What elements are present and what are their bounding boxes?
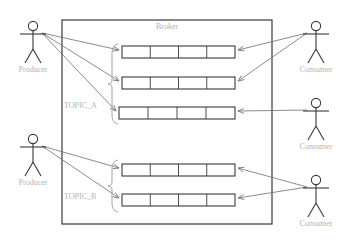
actor-leg-left: [308, 126, 316, 140]
partition-topic_b-0[interactable]: [122, 164, 235, 176]
actor-leg-left: [25, 49, 33, 63]
connection-consumer-2-to-topic-a-partition-2: [238, 110, 307, 111]
partition-topic_a-2[interactable]: [119, 107, 235, 119]
partition-topic_a-1[interactable]: [122, 77, 235, 89]
connection-producer-bottom-to-topic-b-partition-1: [42, 146, 119, 198]
actor-head: [311, 98, 320, 107]
diagram-canvas: Broker TOPIC_ATOPIC_B ProducerProducerCo…: [0, 0, 355, 246]
actor-label-consumer-1: Consumer: [300, 65, 333, 74]
actor-leg-left: [25, 162, 33, 176]
actor-leg-right: [33, 49, 41, 63]
actor-leg-right: [33, 162, 41, 176]
topic-labels: TOPIC_ATOPIC_B: [64, 101, 97, 201]
actor-consumer-3[interactable]: Consumer: [300, 175, 333, 228]
actor-leg-right: [316, 126, 324, 140]
partition-bars: [119, 46, 235, 206]
actor-consumer-1[interactable]: Consumer: [300, 21, 333, 74]
actor-head: [28, 21, 37, 30]
actor-leg-left: [308, 203, 316, 217]
actor-leg-right: [316, 49, 324, 63]
connection-producer-top-to-topic-a-partition-0: [42, 33, 119, 50]
connection-producer-bottom-to-topic-b-partition-0: [42, 146, 119, 168]
topic-braces: [108, 44, 118, 212]
partition-topic_a-0[interactable]: [122, 46, 235, 58]
actor-head: [28, 134, 37, 143]
broker-label: Broker: [156, 22, 179, 31]
topic-label-topic_b: TOPIC_B: [64, 192, 96, 201]
brace-topic_a: [108, 44, 118, 124]
brace-topic_b: [108, 160, 118, 212]
actor-label-producer-top: Producer: [19, 65, 48, 74]
actor-head: [311, 21, 320, 30]
actor-leg-left: [308, 49, 316, 63]
actor-head: [311, 175, 320, 184]
topic-label-topic_a: TOPIC_A: [64, 101, 97, 110]
actor-leg-right: [316, 203, 324, 217]
actor-label-consumer-2: Consumer: [300, 142, 333, 151]
actor-producer-bottom[interactable]: Producer: [19, 134, 48, 187]
actor-label-producer-bottom: Producer: [19, 178, 48, 187]
broker-topic-diagram: Broker TOPIC_ATOPIC_B ProducerProducerCo…: [0, 0, 355, 246]
actor-consumer-2[interactable]: Consumer: [300, 98, 333, 151]
actor-producer-top[interactable]: Producer: [19, 21, 48, 74]
partition-topic_b-1[interactable]: [122, 194, 235, 206]
actor-label-consumer-3: Consumer: [300, 219, 333, 228]
